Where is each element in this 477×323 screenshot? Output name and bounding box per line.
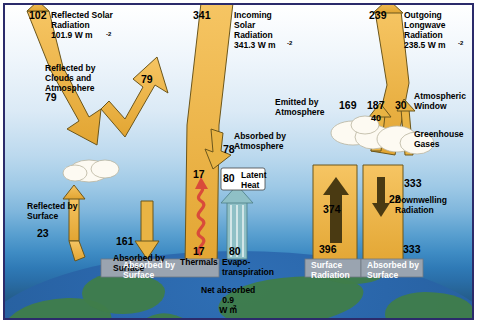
diagram-root: 102 Reflected Solar Radiation 101.9 W m … xyxy=(0,0,477,323)
label-absorbed-atmosphere: Absorbed by Atmosphere xyxy=(234,131,286,151)
back-radiation-small-arrow xyxy=(377,177,385,205)
label-reflected-by-surface: Reflected by Surface xyxy=(27,201,78,221)
value-thermals: 17 xyxy=(193,245,205,257)
label-latent-heat: Latent Heat xyxy=(241,170,267,190)
label-incoming-solar: Incoming Solar Radiation 341.3 W m xyxy=(234,10,276,50)
value-evapotranspiration: 80 xyxy=(229,245,241,257)
incoming-solar-band xyxy=(185,5,233,267)
label-reflected-solar-sup: -2 xyxy=(106,29,111,39)
label-thermals: Thermals xyxy=(180,257,218,267)
value-reflected-by-clouds: 79 xyxy=(45,91,57,103)
label-net-absorbed-sup: -2 xyxy=(231,302,236,312)
value-thermals-top: 17 xyxy=(193,168,205,180)
value-downwelling: 333 xyxy=(404,177,422,189)
label-reflected-by-clouds: Reflected by Clouds and Atmosphere xyxy=(45,63,96,93)
value-reflected-by-surface: 23 xyxy=(37,227,49,239)
value-reflected-by-clouds-arrow: 79 xyxy=(141,73,153,85)
value-atmospheric-window: 30 xyxy=(395,99,407,111)
reflected-surface-arrowhead xyxy=(63,185,85,199)
label-atmospheric-window: Atmospheric Window xyxy=(414,91,466,111)
value-absorbed-atmosphere: 78 xyxy=(223,143,235,155)
value-emitted-atmosphere-2: 187 xyxy=(367,99,385,111)
reflected-surface-connector xyxy=(69,241,85,261)
value-latent-heat: 80 xyxy=(223,172,235,184)
label-evapotranspiration: Evapo- transpiration xyxy=(222,257,274,277)
label-absorbed-surface-right: Absorbed by Surface xyxy=(367,260,419,280)
label-absorbed-surface-left: Absorbed by Surface xyxy=(123,260,175,280)
reflected-clouds-band xyxy=(101,57,168,137)
diagram-frame: 102 Reflected Solar Radiation 101.9 W m … xyxy=(3,3,474,320)
label-surface-radiation: Surface Radiation xyxy=(311,260,350,280)
label-outgoing-longwave: Outgoing Longwave Radiation 238.5 W m xyxy=(404,10,446,50)
label-downwelling-radiation: Downwelling Radiation xyxy=(395,195,447,215)
label-incoming-solar-sup: -2 xyxy=(287,38,292,48)
value-surface-radiation: 396 xyxy=(319,243,337,255)
value-incoming-solar: 341 xyxy=(193,9,211,21)
value-emitted-atmosphere: 169 xyxy=(339,99,357,111)
value-reflected-solar: 102 xyxy=(29,9,47,21)
surface-up-arrow xyxy=(330,193,342,243)
label-outgoing-longwave-sup: -2 xyxy=(458,38,463,48)
label-greenhouse-gases: Greenhouse Gases xyxy=(414,129,464,149)
absorbed-surface-arrow xyxy=(141,201,153,243)
value-absorbed-surface-right: 333 xyxy=(403,243,421,255)
value-surface-up: 374 xyxy=(323,203,341,215)
value-outgoing-longwave: 239 xyxy=(369,9,387,21)
label-net-absorbed: Net absorbed 0.9 W m xyxy=(201,285,255,315)
cloud-left xyxy=(63,160,119,182)
label-reflected-solar: Reflected Solar Radiation 101.9 W m xyxy=(51,10,113,40)
label-emitted-atmosphere: Emitted by Atmosphere xyxy=(275,97,325,117)
value-atmospheric-window-2: 40 xyxy=(371,113,381,123)
value-absorbed-surface-in: 161 xyxy=(116,235,134,247)
